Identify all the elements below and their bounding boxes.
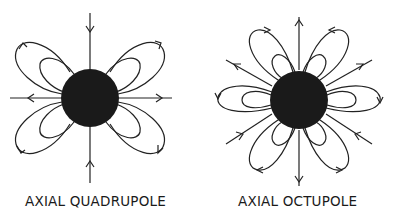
field-diagrams xyxy=(0,0,396,218)
arrow-icon xyxy=(155,41,161,49)
octupole-label: AXIAL OCTUPOLE xyxy=(238,193,357,209)
arrow-icon xyxy=(264,27,270,33)
quadrupole-core xyxy=(61,69,119,127)
quadrupole-label: AXIAL QUADRUPOLE xyxy=(25,193,166,209)
quadrupole-diagram xyxy=(10,13,172,183)
octupole-core xyxy=(270,71,328,129)
diagonal-field-line xyxy=(326,114,372,144)
diagonal-field-line xyxy=(226,114,272,144)
diagonal-field-line xyxy=(326,60,372,86)
arrow-icon xyxy=(19,43,27,49)
diagonal-field-line xyxy=(226,60,272,86)
arrow-icon xyxy=(236,132,243,140)
arrow-icon xyxy=(158,145,163,153)
octupole-diagram xyxy=(215,17,383,186)
